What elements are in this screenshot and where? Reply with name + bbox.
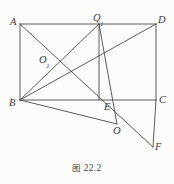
point-letter-A: A — [10, 16, 16, 27]
point-letter-E: E — [104, 101, 110, 112]
point-label-B: B — [9, 98, 15, 109]
point-label-Q1: Q1 — [93, 13, 104, 26]
point-label-D: D — [158, 15, 166, 26]
point-label-O: O — [113, 126, 121, 137]
point-subscript-O1: 1 — [46, 62, 49, 69]
point-label-C: C — [159, 95, 166, 106]
point-label-A: A — [10, 17, 16, 28]
segment-B-O — [20, 100, 117, 124]
caption-prefix: 图 — [72, 163, 81, 173]
segment-A-F — [20, 24, 153, 147]
segment-C-F — [153, 100, 156, 147]
point-letter-O: O — [113, 125, 121, 136]
geometry-figure: AQ1DO1BECOF 图22.2 — [0, 0, 174, 184]
point-letter-F: F — [155, 141, 161, 152]
figure-caption: 图22.2 — [0, 161, 174, 173]
point-subscript-Q1: 1 — [100, 20, 103, 27]
point-letter-B: B — [9, 97, 15, 108]
point-label-E: E — [104, 102, 110, 113]
point-letter-C: C — [159, 94, 166, 105]
segments-group — [20, 24, 156, 147]
point-letter-D: D — [158, 14, 166, 25]
point-label-O1: O1 — [39, 55, 50, 68]
diagram-canvas — [0, 0, 174, 184]
point-label-F: F — [155, 142, 161, 153]
caption-number: 22.2 — [84, 163, 102, 173]
